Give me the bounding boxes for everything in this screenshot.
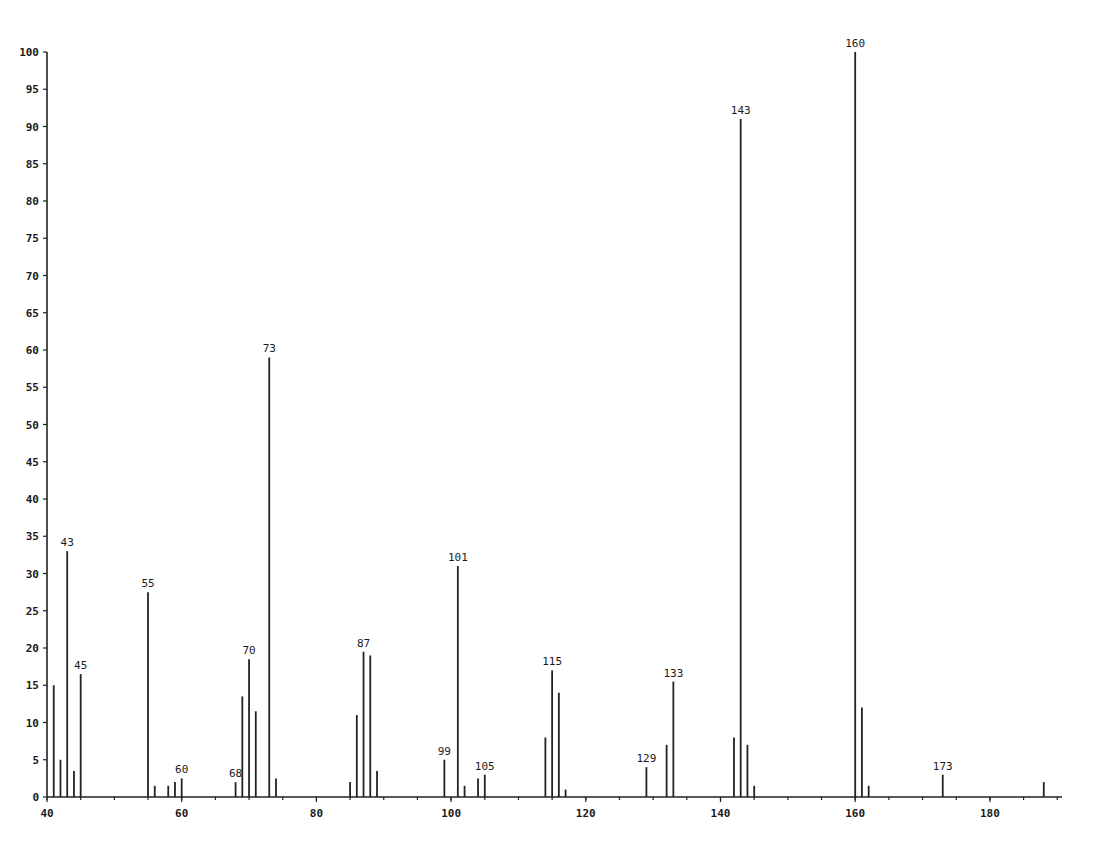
peak-labels: 4345556068707387991011051151291331431601… [61, 37, 953, 780]
peak-label: 60 [175, 763, 188, 776]
y-tick-label: 35 [26, 530, 39, 543]
y-tick-label: 85 [26, 158, 39, 171]
y-tick-label: 25 [26, 605, 39, 618]
mass-spectrum-chart: 0510152025303540455055606570758085909510… [0, 0, 1095, 847]
x-axis: 406080100120140160180 [40, 797, 1062, 820]
peak-label: 43 [61, 536, 74, 549]
y-tick-label: 20 [26, 642, 39, 655]
x-tick-label: 180 [980, 807, 1000, 820]
peak-label: 55 [141, 577, 154, 590]
x-tick-label: 100 [441, 807, 461, 820]
y-tick-label: 30 [26, 568, 39, 581]
x-tick-label: 120 [576, 807, 596, 820]
peak-label: 70 [242, 644, 255, 657]
peak-label: 115 [542, 655, 562, 668]
peak-label: 173 [933, 760, 953, 773]
y-tick-label: 100 [19, 46, 39, 59]
peak-label: 129 [636, 752, 656, 765]
peak-label: 87 [357, 637, 370, 650]
y-tick-label: 10 [26, 717, 39, 730]
y-tick-label: 60 [26, 344, 39, 357]
y-tick-label: 70 [26, 270, 39, 283]
y-tick-label: 0 [32, 791, 39, 804]
y-tick-label: 50 [26, 419, 39, 432]
peak-label: 105 [475, 760, 495, 773]
peak-label: 143 [731, 104, 751, 117]
peak-label: 45 [74, 659, 87, 672]
x-tick-label: 60 [175, 807, 188, 820]
y-tick-label: 55 [26, 381, 39, 394]
peak-label: 99 [438, 745, 451, 758]
x-tick-label: 80 [310, 807, 323, 820]
peak-label: 101 [448, 551, 468, 564]
peak-label: 68 [229, 767, 242, 780]
x-tick-label: 40 [40, 807, 53, 820]
peak-label: 160 [845, 37, 865, 50]
peak-label: 73 [263, 342, 276, 355]
y-tick-label: 80 [26, 195, 39, 208]
y-axis: 0510152025303540455055606570758085909510… [19, 46, 47, 804]
y-tick-label: 95 [26, 83, 39, 96]
peaks [54, 52, 1044, 797]
y-tick-label: 40 [26, 493, 39, 506]
y-tick-label: 5 [32, 754, 39, 767]
peak-label: 133 [663, 667, 683, 680]
y-tick-label: 15 [26, 679, 39, 692]
y-tick-label: 90 [26, 121, 39, 134]
x-tick-label: 160 [845, 807, 865, 820]
x-tick-label: 140 [711, 807, 731, 820]
y-tick-label: 65 [26, 307, 39, 320]
y-tick-label: 75 [26, 232, 39, 245]
y-tick-label: 45 [26, 456, 39, 469]
